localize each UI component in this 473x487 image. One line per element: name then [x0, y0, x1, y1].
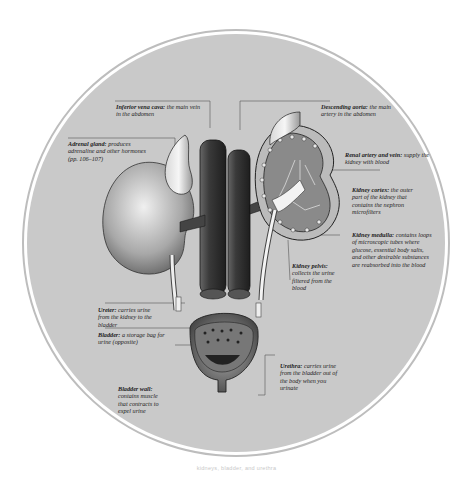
label-urethra: Urethra: carries urine from the bladder …	[280, 362, 340, 392]
label-adrenal-gland: Adrenal gland: produces adrenaline and o…	[68, 140, 153, 162]
label-inferior-vena-cava: Inferior vena cava: the main vein in the…	[116, 103, 206, 118]
label-renal-artery-vein: Renal artery and vein: supply the kidney…	[345, 151, 440, 166]
label-kidney-pelvis: Kidney pelvis: collects the urine filter…	[292, 262, 337, 292]
label-kidney-cortex: Kidney cortex: the outer part of the kid…	[352, 186, 417, 216]
label-kidney-medulla: Kidney medulla: contains loops of micros…	[352, 231, 432, 268]
label-bladder: Bladder: a storage bag for urine (opposi…	[98, 331, 168, 346]
label-ureter: Ureter: carries urine from the kidney to…	[98, 306, 160, 328]
urinary-system-diagram: Inferior vena cava: the main vein in the…	[0, 0, 473, 487]
descending-aorta	[228, 150, 250, 295]
label-bladder-wall: Bladder wall: contains muscle that contr…	[118, 385, 168, 415]
figure-caption: kidneys, bladder, and urethra	[0, 465, 473, 471]
label-descending-aorta: Descending aorta: the main artery in the…	[321, 103, 391, 118]
